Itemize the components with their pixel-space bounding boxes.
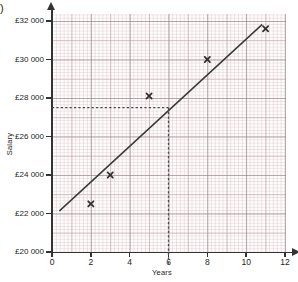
y-axis-tick [46,59,52,60]
y-axis-tick [46,20,52,21]
graph-figure: ) £20 000£22 000£24 000£26 000£28 000£30… [0,0,298,282]
y-axis-title: Salary [6,122,14,166]
y-axis-tick-label: £20 000 [0,248,44,256]
x-axis-tick-label: 10 [236,258,256,267]
x-axis-line [51,252,294,254]
y-axis-arrow-icon [47,2,55,10]
y-axis-line [51,8,53,254]
y-axis-tick [46,97,52,98]
x-axis-tick-label: 2 [81,258,101,267]
x-axis-tick-label: 0 [42,258,62,267]
x-axis-tick-label: 8 [197,258,217,267]
y-axis-tick [46,213,52,214]
y-axis-tick-label: £24 000 [0,171,44,179]
y-axis-tick [46,136,52,137]
y-axis-tick-label: £28 000 [0,94,44,102]
x-axis-tick-label: 12 [275,258,295,267]
x-axis-tick-label: 6 [159,258,179,267]
x-axis-title: Years [152,269,172,277]
x-axis-arrow-icon [292,248,298,256]
x-axis-tick-label: 4 [120,258,140,267]
y-axis-tick-label: £22 000 [0,210,44,218]
y-axis-tick [46,174,52,175]
y-axis-tick-label: £30 000 [0,56,44,64]
graph-paper-grid [52,14,286,252]
question-number-marker: ) [0,2,4,14]
y-axis-tick-label: £32 000 [0,17,44,25]
